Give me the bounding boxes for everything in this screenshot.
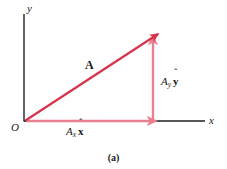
y-component-subscript: y <box>168 80 171 89</box>
resultant-vector-label: A <box>85 59 94 71</box>
x-unit-vector: ˆx <box>78 125 84 137</box>
x-hat-icon: ˆ <box>78 118 84 127</box>
y-axis-label: y <box>27 3 32 14</box>
y-component-base: A <box>161 75 168 87</box>
x-component-base: A <box>66 125 73 137</box>
y-component-label: Ayˆy <box>161 76 179 87</box>
resultant-vector-arrow <box>26 34 159 121</box>
x-component-subscript: x <box>73 130 76 139</box>
vector-components-figure: y x O A Axˆx Ayˆy (a) <box>0 0 227 169</box>
x-component-label: Axˆx <box>66 126 84 137</box>
figure-canvas <box>0 0 227 169</box>
figure-caption: (a) <box>0 152 227 163</box>
y-hat-icon: ˆ <box>173 68 179 77</box>
y-unit-vector: ˆy <box>173 75 179 87</box>
x-axis-label: x <box>209 115 214 126</box>
origin-label: O <box>11 122 19 133</box>
